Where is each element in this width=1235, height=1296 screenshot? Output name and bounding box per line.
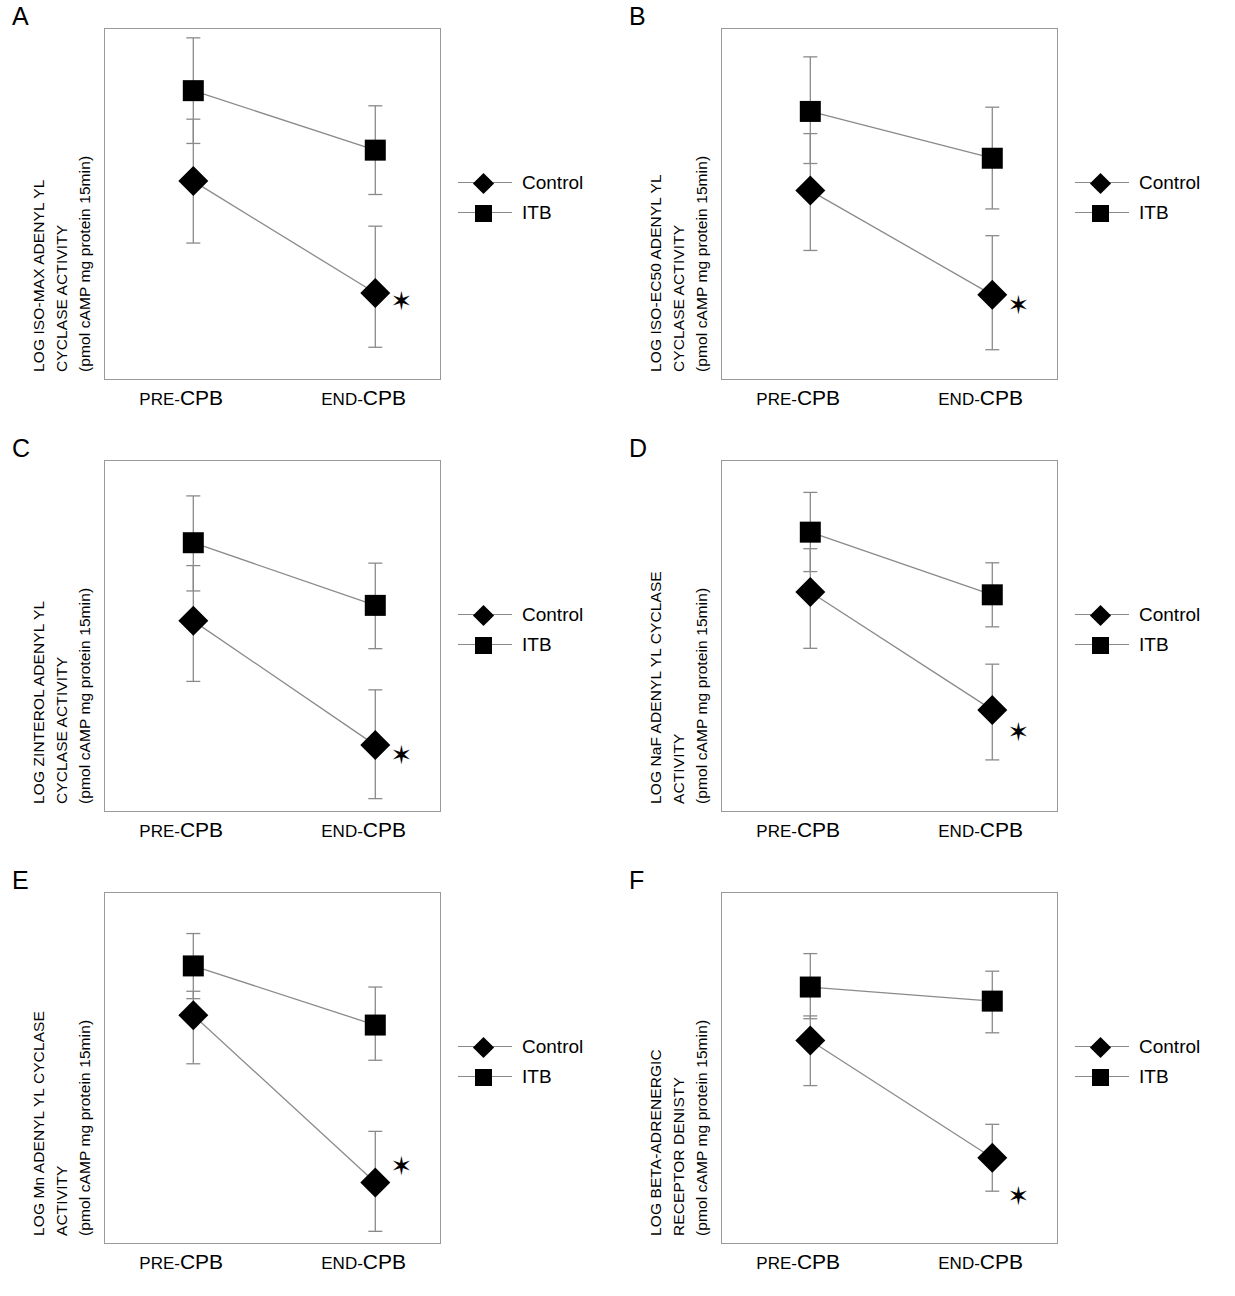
series-connector-line xyxy=(193,966,375,1025)
x-tick-suffix: CPB xyxy=(797,386,840,409)
legend-label: Control xyxy=(512,172,583,194)
series-itb xyxy=(183,38,386,195)
data-point-diamond-end-cpb xyxy=(977,695,1007,725)
legend: ControlITB xyxy=(458,1032,583,1092)
legend-marker-square-icon xyxy=(1075,200,1129,226)
legend-label: Control xyxy=(1129,172,1200,194)
significance-star-icon: ✶ xyxy=(1007,290,1029,320)
legend-key-marker xyxy=(475,637,492,654)
x-tick-prefix: PRE- xyxy=(139,1254,180,1273)
panel-c: CLOG ZINTEROL ADENYL YLCYCLASE ACTIVITY(… xyxy=(0,432,617,864)
series-connector-line xyxy=(193,91,375,150)
x-tick-prefix: END- xyxy=(938,390,980,409)
significance-star-icon: ✶ xyxy=(390,286,412,316)
series-control xyxy=(178,119,390,347)
legend-key-marker xyxy=(473,1037,494,1058)
legend-item-control: Control xyxy=(458,168,583,198)
legend-label: ITB xyxy=(512,634,552,656)
legend: ControlITB xyxy=(1075,1032,1200,1092)
panel-e: ELOG Mn ADENYL YL CYCLASEACTIVITY(pmol c… xyxy=(0,864,617,1296)
legend-label: ITB xyxy=(512,1066,552,1088)
legend-key-marker xyxy=(1092,205,1109,222)
panel-b: BLOG ISO-EC50 ADENYL YLCYCLASE ACTIVITY(… xyxy=(617,0,1234,432)
legend-key-marker xyxy=(1092,637,1109,654)
series-control xyxy=(795,549,1007,760)
x-tick-suffix: CPB xyxy=(980,386,1023,409)
legend-item-control: Control xyxy=(458,600,583,630)
legend-marker-square-icon xyxy=(1075,632,1129,658)
legend-marker-diamond-icon xyxy=(1075,1034,1129,1060)
legend-label: ITB xyxy=(1129,634,1169,656)
legend-label: Control xyxy=(512,1036,583,1058)
x-tick-prefix: END- xyxy=(321,390,363,409)
legend-marker-square-icon xyxy=(458,632,512,658)
x-tick-suffix: CPB xyxy=(363,1250,406,1273)
series-connector-line xyxy=(810,532,992,595)
x-tick-prefix: PRE- xyxy=(756,1254,797,1273)
legend-item-itb: ITB xyxy=(458,198,583,228)
x-tick-suffix: CPB xyxy=(363,818,406,841)
panel-f: FLOG BETA-ADRENERGICRECEPTOR DENISTY(pmo… xyxy=(617,864,1234,1296)
legend-marker-square-icon xyxy=(1075,1064,1129,1090)
data-point-diamond-end-cpb xyxy=(360,730,390,760)
data-point-square-pre-cpb xyxy=(800,977,821,998)
x-tick-suffix: CPB xyxy=(797,1250,840,1273)
series-control xyxy=(795,1016,1007,1191)
series-connector-line xyxy=(810,592,992,710)
legend-label: ITB xyxy=(1129,202,1169,224)
legend-item-control: Control xyxy=(458,1032,583,1062)
x-tick-label-end-cpb: END-CPB xyxy=(321,387,406,408)
legend-label: Control xyxy=(512,604,583,626)
legend-label: Control xyxy=(1129,604,1200,626)
legend-marker-diamond-icon xyxy=(458,170,512,196)
data-point-square-end-cpb xyxy=(982,584,1003,605)
figure-root: ALOG ISO-MAX ADENYL YLCYCLASE ACTIVITY(p… xyxy=(0,0,1235,1296)
data-point-diamond-pre-cpb xyxy=(178,606,208,636)
x-tick-suffix: CPB xyxy=(363,386,406,409)
x-tick-prefix: PRE- xyxy=(756,390,797,409)
series-connector-line xyxy=(810,111,992,158)
x-tick-prefix: PRE- xyxy=(756,822,797,841)
x-tick-prefix: PRE- xyxy=(139,822,180,841)
data-point-diamond-end-cpb xyxy=(360,278,390,308)
data-point-diamond-end-cpb xyxy=(977,1143,1007,1173)
data-point-diamond-end-cpb xyxy=(977,280,1007,310)
legend-item-itb: ITB xyxy=(458,630,583,660)
legend-key-marker xyxy=(1092,1069,1109,1086)
series-connector-line xyxy=(193,543,375,606)
legend-item-itb: ITB xyxy=(1075,1062,1200,1092)
x-tick-prefix: END- xyxy=(321,1254,363,1273)
data-point-square-pre-cpb xyxy=(800,101,821,122)
x-tick-label-pre-cpb: PRE-CPB xyxy=(139,1251,223,1272)
series-control xyxy=(795,134,1007,350)
x-tick-prefix: PRE- xyxy=(139,390,180,409)
x-tick-label-end-cpb: END-CPB xyxy=(321,1251,406,1272)
data-point-diamond-pre-cpb xyxy=(795,176,825,206)
data-point-square-end-cpb xyxy=(982,991,1003,1012)
x-tick-label-pre-cpb: PRE-CPB xyxy=(139,819,223,840)
series-connector-line xyxy=(193,181,375,293)
series-connector-line xyxy=(810,191,992,295)
legend-key-marker xyxy=(473,605,494,626)
legend-marker-diamond-icon xyxy=(458,602,512,628)
data-point-square-pre-cpb xyxy=(183,955,204,976)
legend-item-control: Control xyxy=(1075,168,1200,198)
legend-key-marker xyxy=(1090,173,1111,194)
legend: ControlITB xyxy=(458,600,583,660)
legend-key-marker xyxy=(475,1069,492,1086)
legend-label: Control xyxy=(1129,1036,1200,1058)
legend-label: ITB xyxy=(1129,1066,1169,1088)
x-tick-suffix: CPB xyxy=(180,386,223,409)
series-connector-line xyxy=(810,987,992,1001)
data-point-diamond-pre-cpb xyxy=(178,166,208,196)
legend-item-control: Control xyxy=(1075,1032,1200,1062)
legend-key-marker xyxy=(1090,605,1111,626)
legend-item-itb: ITB xyxy=(1075,198,1200,228)
data-point-diamond-pre-cpb xyxy=(795,1026,825,1056)
data-point-square-end-cpb xyxy=(365,595,386,616)
data-point-square-pre-cpb xyxy=(183,80,204,101)
x-tick-label-pre-cpb: PRE-CPB xyxy=(139,387,223,408)
legend-marker-square-icon xyxy=(458,1064,512,1090)
data-point-square-end-cpb xyxy=(365,140,386,161)
x-tick-label-end-cpb: END-CPB xyxy=(938,1251,1023,1272)
